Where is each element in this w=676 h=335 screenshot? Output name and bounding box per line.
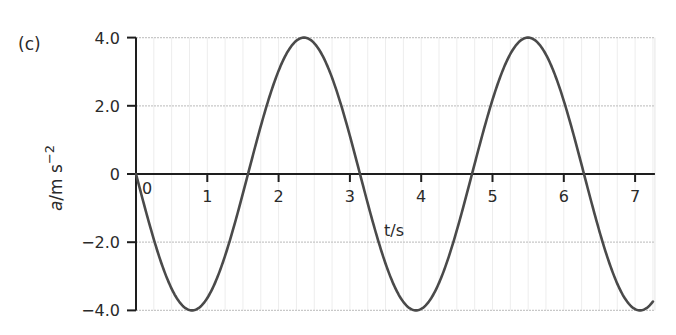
y-tick-label: 0 [110, 165, 120, 184]
y-tick-label: 4.0 [95, 29, 120, 48]
y-axis-exponent: −2 [42, 145, 57, 164]
x-tick-label: 0 [142, 179, 152, 198]
svg-text:a/m s−2: a/m s−2 [42, 145, 66, 211]
y-tick-label: 2.0 [95, 97, 120, 116]
x-axis-label: t/s [384, 221, 404, 240]
y-axis-unit: /m s [46, 164, 66, 201]
x-tick-label: 6 [559, 187, 569, 206]
x-tick-label: 2 [274, 187, 284, 206]
x-tick-label: 1 [202, 187, 212, 206]
acceleration-time-chart: 4.02.00−2.0−4.001234567 (c) t/s a/m s−2 [0, 0, 676, 335]
y-axis-label: a/m s−2 [42, 145, 66, 211]
panel-label: (c) [18, 34, 41, 54]
y-axis-var: a [46, 201, 66, 211]
x-tick-label: 7 [630, 187, 640, 206]
y-tick-label: −2.0 [81, 233, 120, 252]
x-tick-label: 5 [487, 187, 497, 206]
x-tick-label: 3 [345, 187, 355, 206]
y-tick-label: −4.0 [81, 301, 120, 320]
x-tick-label: 4 [416, 187, 426, 206]
axes [127, 38, 655, 311]
